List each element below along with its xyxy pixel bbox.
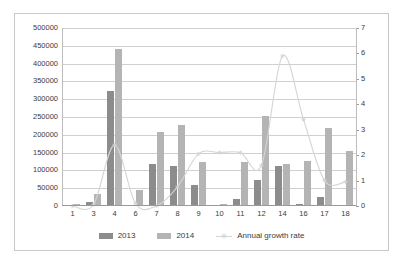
growth-rate-marker	[280, 54, 284, 58]
y2-axis-tick-label: 4	[361, 101, 365, 109]
y-axis-tick-label: 50000	[37, 184, 58, 192]
x-axis-tick-label: 6	[133, 210, 137, 218]
x-axis-tick-label: 10	[215, 210, 223, 218]
y-axis-tick-label: 0	[54, 202, 58, 210]
plot-area: 0500001000001500002000002500003000003500…	[62, 28, 356, 206]
legend-swatch-icon	[99, 233, 113, 239]
x-axis-tick-label: 3	[91, 210, 95, 218]
legend-label: 2013	[118, 232, 136, 240]
y2-axis-tick-label: 7	[361, 24, 365, 32]
chart-legend: 20132014Annual growth rate	[15, 232, 388, 240]
x-axis-tick-label: 18	[341, 210, 349, 218]
y2-axis-tick-label: 0	[361, 202, 365, 210]
x-axis-tick-label: 12	[257, 210, 265, 218]
x-axis-tick-label: 1	[70, 210, 74, 218]
x-axis-tick-label: 14	[278, 210, 286, 218]
y2-axis-tick-label: 1	[361, 177, 365, 185]
y-axis-tick-label: 100000	[33, 167, 58, 175]
growth-rate-marker	[301, 117, 305, 121]
growth-rate-marker	[175, 185, 179, 189]
y2-axis-tick-mark	[356, 206, 359, 207]
y-axis-tick-label: 450000	[33, 42, 58, 50]
y-axis-tick-label: 500000	[33, 24, 58, 32]
y-axis-tick-label: 350000	[33, 78, 58, 86]
y2-axis-tick-label: 2	[361, 151, 365, 159]
x-axis-tick-label: 16	[299, 210, 307, 218]
y2-axis-tick-label: 5	[361, 75, 365, 83]
x-axis-tick-label: 8	[175, 210, 179, 218]
x-axis-tick-label: 4	[112, 210, 116, 218]
y-axis-right-line	[356, 28, 357, 206]
chart-container: 0500001000001500002000002500003000003500…	[14, 13, 389, 251]
growth-rate-path	[73, 55, 346, 209]
growth-rate-line	[62, 28, 356, 206]
legend-item[interactable]: 2013	[99, 232, 136, 240]
growth-rate-marker	[343, 180, 347, 184]
growth-rate-marker	[259, 163, 263, 167]
y-axis-tick-label: 150000	[33, 149, 58, 157]
growth-rate-marker	[217, 150, 221, 154]
x-axis-tick-label: 9	[196, 210, 200, 218]
y-axis-tick-label: 300000	[33, 95, 58, 103]
growth-rate-marker	[112, 143, 116, 147]
y-axis-tick-label: 250000	[33, 113, 58, 121]
x-axis-tick-label: 11	[237, 210, 245, 218]
legend-label: 2014	[176, 232, 194, 240]
y-axis-tick-label: 400000	[33, 60, 58, 68]
legend-swatch-icon	[157, 233, 171, 239]
x-axis-line	[62, 205, 356, 206]
y-axis-tick-label: 200000	[33, 131, 58, 139]
y2-axis-tick-label: 6	[361, 50, 365, 58]
growth-rate-marker	[322, 178, 326, 182]
x-axis-tick-label: 17	[320, 210, 328, 218]
y2-axis-tick-label: 3	[361, 126, 365, 134]
y-axis-left-line	[62, 28, 63, 206]
legend-label: Annual growth rate	[237, 232, 304, 240]
x-axis-tick-label: 7	[154, 210, 158, 218]
legend-line-marker-icon	[216, 233, 232, 239]
legend-item[interactable]: Annual growth rate	[216, 232, 304, 240]
growth-rate-marker	[238, 150, 242, 154]
legend-item[interactable]: 2014	[157, 232, 194, 240]
